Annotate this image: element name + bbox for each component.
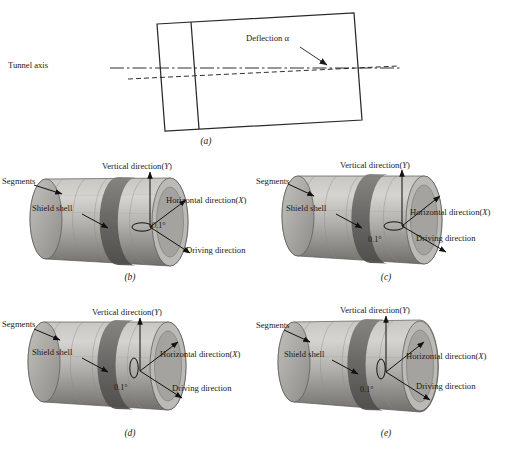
vertical-direction-text: Vertical direction( [340,305,402,315]
segments-label: Segments [256,177,289,186]
panel-c-drawing [256,152,512,282]
vertical-paren-close: ) [169,161,172,171]
horizontal-direction-label: Horizontal direction(X) [406,352,486,361]
vertical-direction-label: Vertical direction(Y) [92,308,162,317]
cylinder-rear-face [28,322,60,402]
panel-label-d: (d) [100,428,160,438]
driving-direction-label: Driving direction [186,246,245,255]
rotation-angle-label: 0.1° [114,384,128,392]
shield-shell-label: Shield shell [32,204,72,213]
panel-e-drawing [256,296,512,430]
vertical-direction-label: Vertical direction(Y) [340,306,410,315]
panel-label-a: (a) [176,136,236,146]
tunnel-axis-label: Tunnel axis [8,61,48,70]
horizontal-direction-text: Horizontal direction( [410,207,482,217]
horizontal-direction-label: Horizontal direction(X) [160,350,240,359]
deflection-angle-label: Deflection α [246,34,289,43]
vertical-direction-label: Vertical direction(Y) [102,162,172,171]
horizontal-paren-close: ) [484,351,487,361]
horizontal-direction-text: Horizontal direction( [406,351,478,361]
panel-a-drawing [0,8,512,136]
driving-direction-label: Driving direction [416,234,475,243]
vertical-paren-close: ) [159,307,162,317]
vertical-direction-text: Vertical direction( [102,161,164,171]
panel-a: Tunnel axis Deflection α [0,8,512,136]
vertical-paren-close: ) [407,305,410,315]
vertical-direction-label: Vertical direction(Y) [340,161,410,170]
shield-shell-label: Shield shell [284,350,324,359]
cylinder-rear-face [282,176,314,256]
panel-label-e: (e) [356,428,416,438]
rotation-angle-label: 0.1° [368,236,382,244]
segments-label: Segments [256,321,289,330]
horizontal-paren-close: ) [238,349,241,359]
panel-d: Segments Shield shell Vertical direction… [0,296,256,436]
rotation-angle-label: 0.1° [360,386,374,394]
horizontal-direction-label: Horizontal direction(X) [166,196,246,205]
cylinder-rear-face [30,179,62,259]
segments-label: Segments [2,177,35,186]
panel-b: Segments Shield shell Vertical direction… [0,152,256,292]
vertical-direction-text: Vertical direction( [92,307,154,317]
cylinder-front-inner [407,330,434,402]
horizontal-paren-close: ) [488,207,491,217]
driving-direction-label: Driving direction [172,384,231,393]
horizontal-direction-text: Horizontal direction( [166,195,238,205]
cylinder-rear-face [278,322,310,402]
horizontal-paren-close: ) [244,195,247,205]
panel-label-b: (b) [100,272,160,282]
segments-label: Segments [2,320,35,329]
vertical-paren-close: ) [407,160,410,170]
rotation-angle-label: 0.1° [152,222,166,230]
panel-e: Segments Shield shell Vertical direction… [256,296,512,436]
horizontal-direction-label: Horizontal direction(X) [410,208,490,217]
figure-root: Tunnel axis Deflection α (a) [0,0,512,456]
tunnel-ring-rectangle [157,13,362,131]
panel-label-c: (c) [356,272,416,282]
panel-c: Segments Shield shell Vertical direction… [256,152,512,292]
horizontal-direction-text: Horizontal direction( [160,349,232,359]
panel-b-drawing [0,152,256,282]
page-top-clipped-text [0,0,512,7]
vertical-direction-text: Vertical direction( [340,160,402,170]
shield-shell-label: Shield shell [286,204,326,213]
driving-direction-label: Driving direction [416,382,475,391]
shield-shell-label: Shield shell [32,348,72,357]
